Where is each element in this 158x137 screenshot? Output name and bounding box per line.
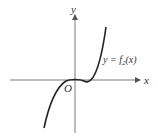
x-axis-label: x bbox=[143, 74, 149, 86]
curve-label: y = f2(x) bbox=[102, 54, 137, 67]
y-axis-label: y bbox=[70, 3, 76, 15]
function-graph: x y O y = f2(x) bbox=[0, 0, 158, 137]
origin-label: O bbox=[64, 82, 72, 94]
